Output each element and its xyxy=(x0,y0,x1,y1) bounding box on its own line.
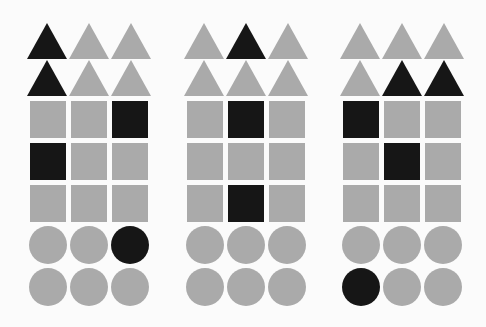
circle-gray xyxy=(424,226,462,264)
triangle-gray xyxy=(340,60,380,96)
square-gray xyxy=(187,143,223,180)
circle-black xyxy=(342,268,380,306)
square-gray xyxy=(269,143,305,180)
triangle-gray xyxy=(226,60,266,96)
triangle-black xyxy=(382,60,422,96)
circle-gray xyxy=(268,226,306,264)
circle-gray xyxy=(186,226,224,264)
circle-gray xyxy=(186,268,224,306)
square-black xyxy=(343,101,379,138)
panel-3 xyxy=(0,0,150,327)
triangle-gray xyxy=(184,23,224,59)
square-gray xyxy=(425,101,461,138)
square-gray xyxy=(228,143,264,180)
circle-gray xyxy=(268,268,306,306)
circle-gray xyxy=(227,268,265,306)
triangle-gray xyxy=(424,23,464,59)
circle-gray xyxy=(342,226,380,264)
triangle-black xyxy=(226,23,266,59)
triangle-black xyxy=(424,60,464,96)
square-black xyxy=(228,185,264,222)
square-gray xyxy=(187,185,223,222)
square-gray xyxy=(384,185,420,222)
circle-gray xyxy=(383,226,421,264)
triangle-gray xyxy=(340,23,380,59)
circle-gray xyxy=(227,226,265,264)
triangle-gray xyxy=(268,23,308,59)
square-gray xyxy=(343,143,379,180)
circle-gray xyxy=(424,268,462,306)
triangle-gray xyxy=(382,23,422,59)
circle-gray xyxy=(383,268,421,306)
square-gray xyxy=(269,185,305,222)
square-gray xyxy=(187,101,223,138)
square-gray xyxy=(425,143,461,180)
square-gray xyxy=(425,185,461,222)
triangle-gray xyxy=(184,60,224,96)
square-gray xyxy=(343,185,379,222)
square-black xyxy=(384,143,420,180)
square-gray xyxy=(269,101,305,138)
square-gray xyxy=(384,101,420,138)
square-black xyxy=(228,101,264,138)
triangle-gray xyxy=(268,60,308,96)
